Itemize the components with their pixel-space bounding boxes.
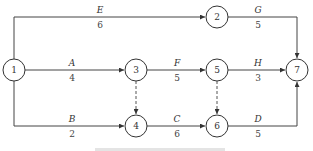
arrow-E [14,17,205,59]
activity-name-F: F [173,58,181,68]
activity-name-B: B [68,114,76,124]
activity-duration-A: 4 [69,73,75,83]
arrow-D [228,82,297,126]
activity-name-E: E [96,5,104,15]
node-label: 1 [11,65,17,75]
node-4: 4 [125,115,147,137]
node-label: 4 [133,121,139,131]
node-7: 7 [286,59,308,81]
node-label: 6 [214,121,220,131]
activity-duration-G: 5 [255,20,261,30]
node-1: 1 [3,59,25,81]
activity-duration-B: 2 [69,129,75,139]
activity-arrows [14,17,297,126]
node-label: 7 [294,65,300,75]
activity-name-C: C [174,114,181,124]
caption-clipped-glyphs [95,148,225,151]
node-6: 6 [206,115,228,137]
activity-duration-H: 3 [255,73,261,83]
activity-name-D: D [253,114,261,124]
node-3: 3 [125,59,147,81]
dummy-arrows [136,81,217,114]
node-label: 3 [133,65,139,75]
node-label: 5 [214,65,220,75]
activity-name-A: A [68,58,76,68]
node-5: 5 [206,59,228,81]
activity-duration-D: 5 [255,129,261,139]
figure-caption [95,148,225,151]
activity-name-H: H [253,58,262,68]
activity-name-G: G [254,5,261,15]
activity-duration-E: 6 [97,20,103,30]
node-2: 2 [206,6,228,28]
activity-labels: E 6 A 4 B 2 G 5 F 5 C 6 H 3 D 5 [68,5,262,139]
node-label: 2 [214,12,220,22]
activity-duration-F: 5 [174,73,180,83]
activity-duration-C: 6 [174,129,180,139]
arrow-G [228,17,297,58]
network-diagram: E 6 A 4 B 2 G 5 F 5 C 6 H 3 D 5 1 2 3 4 … [0,0,313,151]
